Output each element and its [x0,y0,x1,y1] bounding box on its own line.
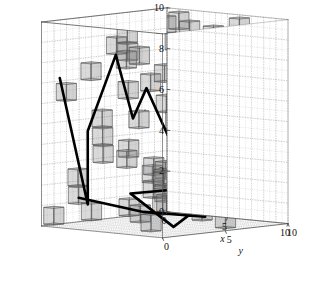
voxel-cube [179,84,199,103]
z-tick-2: 2 [159,165,164,176]
voxel-cube [93,127,113,146]
voxel-cube [178,48,198,67]
voxel-cube [154,64,174,83]
voxel-cube [129,46,149,65]
voxel-cube [205,119,225,138]
voxel-cube [228,145,248,164]
x-tick-0: 0 [162,215,167,226]
voxel-cube [81,62,101,81]
y-tick-5: 5 [227,234,232,245]
y-axis-title: y [238,245,244,256]
voxel-cube [166,111,186,130]
z-tick-10: 10 [154,2,164,13]
voxel-cube [180,76,200,95]
voxel-cube [253,165,273,184]
voxel-cube [190,111,210,130]
z-axis-title: z [143,107,146,112]
voxel-cube [156,94,176,113]
voxel-cube [180,20,200,39]
voxel-cube [228,66,248,85]
voxel-cube [68,168,88,187]
figure-3d-voxel-plot: 024681005100510 x y z [0,0,320,282]
x-tick-5: 5 [222,221,227,232]
z-tick-8: 8 [159,43,164,54]
box-frame-front [163,8,289,238]
voxel-cube [117,150,137,169]
voxel-cube [93,145,113,164]
voxel-cube [229,183,249,202]
voxel-cube [204,43,224,62]
z-tick-6: 6 [159,84,164,95]
voxel-cube [56,82,76,101]
z-tick-4: 4 [159,125,164,136]
voxel-cube [165,32,185,51]
x-axis-title: x [219,233,225,244]
voxel-cube [81,202,101,221]
y-tick-10: 10 [287,227,297,238]
y-tick-0: 0 [164,241,169,252]
voxel-cube [44,206,64,225]
plot-canvas: 024681005100510 x y z [0,0,320,282]
voxel-cube [117,25,137,44]
